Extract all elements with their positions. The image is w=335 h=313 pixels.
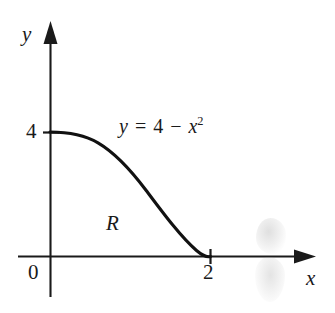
equation-equals: = bbox=[133, 115, 148, 137]
equation-exponent: 2 bbox=[197, 114, 203, 128]
origin-label: 0 bbox=[28, 262, 39, 283]
x-axis-label: x bbox=[306, 268, 315, 289]
equation-lhs: y bbox=[119, 115, 128, 137]
parabola-curve bbox=[50, 132, 211, 257]
graph-svg bbox=[0, 0, 335, 313]
figure-canvas: y x 4 0 2 R y = 4 − x2 bbox=[0, 0, 335, 313]
equation-variable: x bbox=[188, 115, 197, 137]
y-tick-label-4: 4 bbox=[26, 121, 37, 142]
equation-constant: 4 bbox=[153, 115, 163, 137]
region-label-r: R bbox=[106, 213, 119, 234]
x-tick-label-2: 2 bbox=[203, 262, 214, 283]
y-axis-arrowhead bbox=[44, 21, 58, 44]
equation-minus: − bbox=[168, 115, 183, 137]
curve-equation-label: y = 4 − x2 bbox=[119, 116, 204, 136]
y-axis-label: y bbox=[22, 24, 31, 45]
x-axis-arrowhead bbox=[294, 250, 316, 264]
